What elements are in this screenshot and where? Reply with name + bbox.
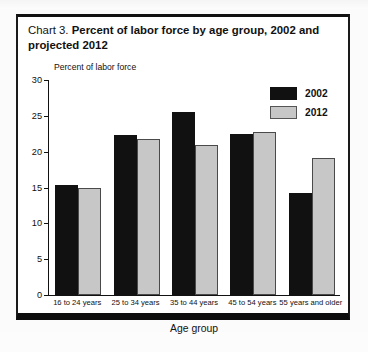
y-tick-20 [44, 152, 48, 153]
y-tick-label-20: 20 [32, 147, 42, 157]
bar-2002-5 [289, 193, 312, 295]
bar-2012-4 [253, 132, 276, 295]
x-axis-label-3: 35 to 44 years [161, 298, 227, 307]
scan-artifact-bottom [0, 332, 368, 352]
bar-group [114, 80, 160, 295]
bar-2002-3 [172, 112, 195, 295]
plot-area: 302520151050 16 to 24 years25 to 34 year… [48, 80, 340, 296]
bar-group [172, 80, 218, 295]
x-axis-label-1: 16 to 24 years [44, 298, 110, 307]
y-tick-30 [44, 80, 48, 81]
chart-title-text: Percent of labor force by age group, 200… [28, 24, 319, 51]
bar-group [289, 80, 335, 295]
bar-group [230, 80, 276, 295]
bar-group [55, 80, 101, 295]
y-tick-25 [44, 116, 48, 117]
x-axis-line [48, 295, 340, 296]
y-tick-label-0: 0 [37, 290, 42, 300]
scan-artifact-top [0, 0, 368, 9]
bar-2002-1 [55, 185, 78, 295]
y-tick-label-5: 5 [37, 254, 42, 264]
chart-title: Chart 3. Percent of labor force by age g… [28, 23, 340, 52]
chart-frame: Chart 3. Percent of labor force by age g… [16, 14, 350, 320]
y-tick-label-10: 10 [32, 218, 42, 228]
chart-title-number: Chart 3. [28, 24, 69, 36]
x-axis-title: Age group [48, 323, 340, 334]
y-tick-label-30: 30 [32, 75, 42, 85]
y-tick-label-15: 15 [32, 183, 42, 193]
y-tick-10 [44, 223, 48, 224]
bar-2012-2 [137, 139, 160, 295]
chart-page: Chart 3. Percent of labor force by age g… [0, 0, 368, 352]
x-axis-label-2: 25 to 34 years [102, 298, 168, 307]
x-axis-label-4: 45 to 54 years [219, 298, 285, 307]
bar-2002-2 [114, 135, 137, 295]
bar-2012-3 [195, 145, 218, 296]
x-axis-label-5: 55 years and older [278, 298, 344, 307]
y-axis-caption: Percent of labor force [54, 62, 136, 72]
bar-series-container [49, 80, 340, 295]
y-tick-label-25: 25 [32, 111, 42, 121]
y-tick-15 [44, 188, 48, 189]
bar-2002-4 [230, 134, 253, 295]
y-tick-0 [44, 295, 48, 296]
y-tick-5 [44, 259, 48, 260]
bar-2012-1 [78, 188, 101, 296]
bar-2012-5 [312, 158, 335, 295]
